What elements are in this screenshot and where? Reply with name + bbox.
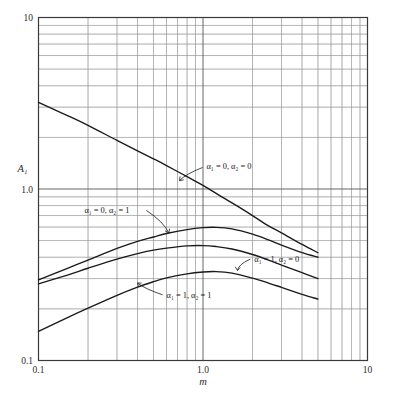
- log-log-chart: α₁ = 0, α₂ = 0α₁ = 0, α₂ = 1α₁ = 1, α₂ =…: [0, 0, 405, 415]
- ytick-1: 1.0: [21, 185, 33, 195]
- x-axis-title: m: [199, 376, 207, 387]
- xtick-10: 10: [363, 365, 373, 375]
- curve-label: α₁ = 1, α₂ = 0: [254, 255, 299, 264]
- ytick-10: 10: [24, 13, 34, 23]
- y-axis-title: A₁: [16, 163, 27, 174]
- ytick-0.1: 0.1: [21, 356, 33, 366]
- major-gridlines: [39, 18, 368, 361]
- curve-label: α₁ = 1, α₂ = 1: [167, 291, 212, 300]
- curve-label: α₁ = 0, α₂ = 1: [84, 206, 129, 215]
- chart-background: [0, 0, 405, 415]
- xtick-1: 1.0: [197, 365, 209, 375]
- chart-figure: α₁ = 0, α₂ = 0α₁ = 0, α₂ = 1α₁ = 1, α₂ =…: [0, 0, 405, 415]
- xtick-0.1: 0.1: [33, 365, 45, 375]
- curve-label: α₁ = 0, α₂ = 0: [206, 162, 251, 171]
